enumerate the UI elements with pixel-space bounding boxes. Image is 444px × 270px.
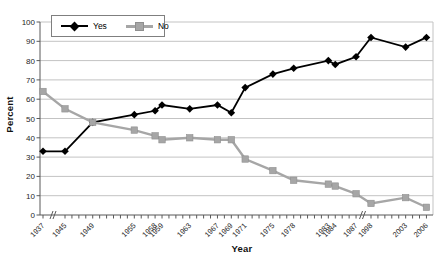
no-data-point bbox=[214, 137, 220, 143]
no-data-point bbox=[131, 127, 137, 133]
no-data-point bbox=[228, 137, 234, 143]
diamond-marker-icon bbox=[70, 21, 80, 31]
yes-data-point bbox=[131, 111, 139, 119]
yes-line-swatch bbox=[61, 21, 88, 31]
no-data-point bbox=[402, 194, 408, 200]
no-data-point bbox=[290, 177, 296, 183]
y-tick-label: 40 bbox=[26, 134, 35, 143]
legend: Yes No bbox=[51, 15, 165, 37]
no-data-point bbox=[159, 137, 165, 143]
series-no-line bbox=[43, 91, 426, 207]
y-tick-label: 20 bbox=[26, 172, 35, 181]
no-data-point bbox=[242, 156, 248, 162]
yes-data-point bbox=[214, 101, 222, 109]
x-tick-label: 1978 bbox=[279, 221, 297, 239]
y-tick-label: 80 bbox=[26, 57, 35, 66]
yes-data-point bbox=[331, 61, 339, 69]
yes-data-point bbox=[241, 84, 249, 92]
legend-item-no: No bbox=[126, 21, 169, 32]
no-data-point bbox=[368, 200, 374, 206]
no-data-point bbox=[270, 167, 276, 173]
y-tick-label: 70 bbox=[26, 76, 35, 85]
y-tick-label: 10 bbox=[26, 192, 35, 201]
line-chart-figure: 0102030405060708090100193719451949195519… bbox=[0, 0, 444, 270]
no-data-point bbox=[353, 191, 359, 197]
x-tick-label: 1945 bbox=[50, 221, 68, 239]
y-tick-label: 0 bbox=[31, 211, 36, 220]
x-tick-label: 1971 bbox=[230, 221, 248, 239]
x-tick-label: 1975 bbox=[258, 221, 276, 239]
series-yes-line bbox=[43, 37, 426, 151]
y-tick-label: 50 bbox=[26, 115, 35, 124]
x-tick-label: 1987 bbox=[341, 221, 359, 239]
no-data-point bbox=[187, 135, 193, 141]
x-tick-label: 1955 bbox=[120, 221, 138, 239]
yes-data-point bbox=[423, 34, 431, 42]
x-tick-label: 1963 bbox=[175, 221, 193, 239]
x-axis-title: Year bbox=[192, 243, 292, 254]
yes-data-point bbox=[325, 57, 333, 65]
yes-data-point bbox=[402, 43, 410, 51]
yes-data-point bbox=[269, 70, 277, 78]
yes-data-point bbox=[290, 65, 298, 73]
y-tick-label: 30 bbox=[26, 153, 35, 162]
legend-label-yes: Yes bbox=[93, 21, 107, 32]
no-data-point bbox=[423, 204, 429, 210]
no-data-point bbox=[62, 106, 68, 112]
y-tick-label: 90 bbox=[26, 37, 35, 46]
y-tick-label: 60 bbox=[26, 95, 35, 104]
no-data-point bbox=[90, 119, 96, 125]
x-tick-label: 2003 bbox=[391, 221, 409, 239]
x-tick-label: 1998 bbox=[356, 221, 374, 239]
yes-data-point bbox=[186, 105, 194, 113]
no-line-swatch bbox=[126, 21, 153, 31]
no-data-point bbox=[325, 181, 331, 187]
x-tick-label: 1937 bbox=[28, 221, 46, 239]
yes-data-point bbox=[228, 109, 236, 117]
y-tick-label: 100 bbox=[22, 18, 36, 27]
no-data-point bbox=[152, 133, 158, 139]
plot-svg: 0102030405060708090100193719451949195519… bbox=[0, 0, 444, 270]
no-data-point bbox=[40, 88, 46, 94]
x-tick-label: 1949 bbox=[78, 221, 96, 239]
square-marker-icon bbox=[136, 23, 143, 30]
no-data-point bbox=[332, 183, 338, 189]
legend-label-no: No bbox=[158, 21, 169, 32]
legend-item-yes: Yes bbox=[61, 21, 107, 32]
x-tick-label: 2006 bbox=[412, 221, 430, 239]
y-axis-title: Percent bbox=[4, 60, 15, 170]
